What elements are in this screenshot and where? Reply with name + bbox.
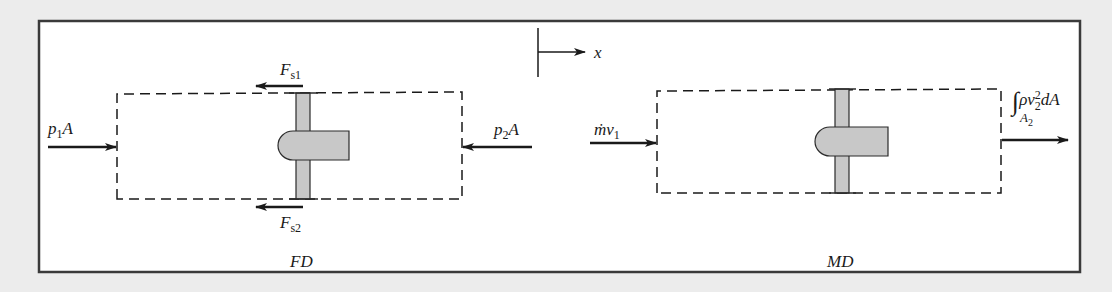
- md-caption: MD: [827, 252, 853, 272]
- integral-sign: ∫: [1012, 87, 1019, 116]
- fd-outlet-label: p2A: [494, 121, 519, 141]
- diagram-canvas: [0, 0, 1112, 292]
- fd-support-bottom-label: Fs2: [280, 214, 301, 234]
- fd-caption: FD: [290, 252, 313, 272]
- md-inlet-label: ṁv1: [594, 121, 620, 141]
- fd-inlet-label: p1A: [48, 120, 73, 140]
- md-outlet-label: ∫ρv22dA: [1012, 84, 1060, 112]
- md-integral-limit: A2: [1020, 111, 1033, 128]
- outer-frame: [39, 21, 1080, 272]
- fd-support-top-label: Fs1: [280, 61, 301, 81]
- axis-label: x: [594, 44, 602, 61]
